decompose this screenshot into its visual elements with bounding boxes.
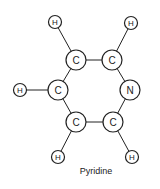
atom-symbol: N	[126, 85, 133, 96]
diagram-caption: Pyridine	[0, 166, 160, 176]
atom-symbol: H	[128, 19, 134, 28]
atom-symbol: H	[17, 86, 23, 95]
bonds-group	[20, 22, 132, 157]
atom-c-c5: C	[103, 112, 123, 132]
atom-symbol: C	[109, 117, 116, 128]
atom-h-h2: H	[125, 17, 138, 30]
atom-n-n1: N	[120, 80, 140, 100]
atom-symbol: H	[55, 153, 61, 162]
pyridine-structure-diagram: HHCCHCNCCHH	[0, 0, 160, 189]
atom-c-c1: C	[66, 50, 86, 70]
atom-c-c3: C	[48, 80, 68, 100]
atom-symbol: C	[108, 55, 115, 66]
atom-h-h5: H	[126, 151, 139, 164]
atom-symbol: C	[54, 85, 61, 96]
atom-c-c4: C	[66, 112, 86, 132]
atom-h-h4: H	[52, 151, 65, 164]
atom-symbol: C	[72, 55, 79, 66]
atom-symbol: C	[72, 117, 79, 128]
atom-c-c2: C	[102, 50, 122, 70]
atom-symbol: H	[52, 18, 58, 27]
atom-symbol: H	[129, 153, 135, 162]
atom-h-h1: H	[49, 16, 62, 29]
atom-h-h3: H	[14, 84, 27, 97]
